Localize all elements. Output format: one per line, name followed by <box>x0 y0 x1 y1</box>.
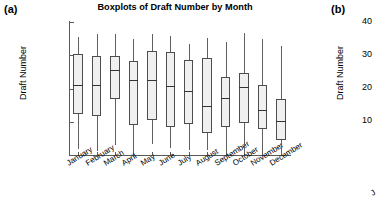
boxplot-plot-area <box>69 22 290 155</box>
median-line <box>166 86 176 87</box>
median-line <box>239 87 249 88</box>
median-line <box>221 98 231 99</box>
panel-b-y-tick-label: 20 <box>362 82 372 92</box>
box-iqr <box>110 56 120 100</box>
median-line <box>92 85 102 86</box>
panel-b-label: (b) <box>331 3 345 15</box>
box-iqr <box>202 58 212 133</box>
box-iqr <box>129 61 139 125</box>
median-line <box>276 121 286 122</box>
box-iqr <box>258 85 268 130</box>
box-iqr <box>166 52 176 127</box>
box-iqr <box>221 77 231 127</box>
panel-b: Draft Number 40302010 J <box>296 0 378 211</box>
median-line <box>202 106 212 107</box>
whisker-upper <box>97 34 98 57</box>
panel-a: (a) Boxplots of Draft Number by Month Dr… <box>0 0 296 211</box>
median-line <box>73 85 83 86</box>
median-line <box>184 91 194 92</box>
median-line <box>147 80 157 81</box>
median-line <box>129 80 139 81</box>
panel-b-partial-xtick-label: J <box>369 188 377 198</box>
whisker-lower <box>262 129 263 151</box>
median-line <box>258 110 268 111</box>
whisker-upper <box>152 34 153 50</box>
panel-b-y-axis-label: Draft Number <box>335 33 345 113</box>
whisker-upper <box>226 42 227 77</box>
panel-b-y-tick-label: 10 <box>362 115 372 125</box>
whisker-upper <box>133 39 134 61</box>
whisker-lower <box>78 114 79 149</box>
whisker-lower <box>189 124 190 150</box>
whisker-lower <box>133 125 134 152</box>
panel-b-y-tick-label: 40 <box>362 16 372 26</box>
whisker-lower <box>244 123 245 154</box>
whisker-upper <box>244 33 245 73</box>
whisker-upper <box>281 46 282 99</box>
whisker-upper <box>262 39 263 85</box>
whisker-upper <box>207 38 208 58</box>
whisker-upper <box>115 34 116 56</box>
y-axis-label: Draft Number <box>18 33 28 113</box>
whisker-lower <box>207 133 208 150</box>
median-line <box>110 70 120 71</box>
whisker-upper <box>189 44 190 60</box>
box-iqr <box>276 99 286 140</box>
whisker-upper <box>78 37 79 54</box>
panel-b-y-tick-label: 30 <box>362 49 372 59</box>
whisker-lower <box>281 140 282 155</box>
whisker-lower <box>152 120 153 144</box>
chart-title: Boxplots of Draft Number by Month <box>60 2 290 12</box>
figure-root: (a) Boxplots of Draft Number by Month Dr… <box>0 0 378 211</box>
whisker-lower <box>97 116 98 152</box>
panel-a-label: (a) <box>4 3 17 15</box>
whisker-lower <box>115 99 116 145</box>
whisker-lower <box>170 127 171 148</box>
box-iqr <box>147 51 157 120</box>
whisker-upper <box>170 36 171 51</box>
whisker-lower <box>226 127 227 152</box>
box-iqr <box>239 73 249 123</box>
